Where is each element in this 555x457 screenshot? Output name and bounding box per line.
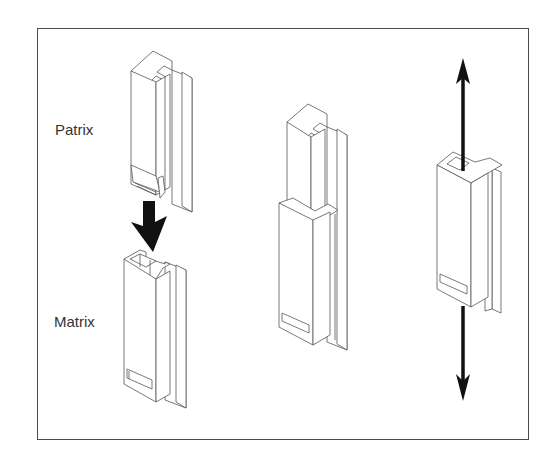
engaged-assembly: [279, 104, 347, 350]
matrix-part: [124, 250, 186, 408]
attachment-illustration: [0, 0, 555, 457]
patrix-part: [131, 51, 192, 212]
insert-down-arrow-icon: [131, 201, 167, 252]
loaded-assembly: [437, 152, 502, 313]
